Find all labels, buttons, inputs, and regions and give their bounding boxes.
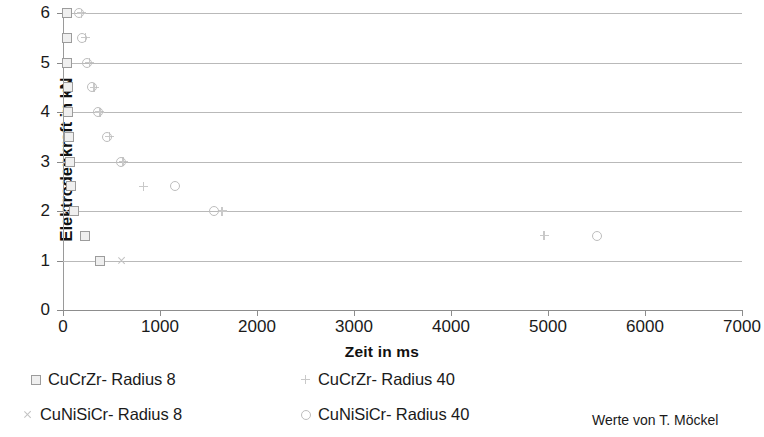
x-axis-tick-label: 7000 [707,318,764,335]
x-axis-tick [742,310,743,316]
legend-label: CuNiSiCr- Radius 40 [318,405,469,424]
legend-marker-cross-icon [22,409,33,420]
legend-marker-plus-icon [300,374,311,385]
x-axis-tick [645,310,646,316]
y-axis-tick-label: 5 [10,54,50,71]
x-axis-tick-label: 5000 [513,318,583,335]
data-point-square [66,181,76,191]
data-point-plus [104,131,115,142]
data-point-plus [138,181,149,192]
gridline [63,211,742,212]
cross-icon [22,409,33,420]
x-axis-tick-label: 6000 [610,318,680,335]
y-axis-tick-label: 3 [10,153,50,170]
x-axis-tick-label: 1000 [125,318,195,335]
x-axis-tick [451,310,452,316]
data-point-circle [77,33,87,43]
gridline [63,63,742,64]
legend-marker-square-icon [30,374,41,385]
gridline [63,261,742,262]
legend-label: CuNiSiCr- Radius 8 [40,405,182,424]
data-point-plus [89,82,100,93]
data-point-circle [87,82,97,92]
plus-icon [300,374,311,385]
y-axis-tick-label: 0 [10,301,50,318]
data-point-plus [539,230,550,241]
x-axis-tick-label: 4000 [416,318,486,335]
gridline [63,162,742,163]
x-axis-tick [548,310,549,316]
legend-item[interactable]: CuCrZr- Radius 40 [300,370,455,389]
plot-area [63,13,742,310]
x-axis-tick [63,310,64,316]
y-axis-tick-label: 6 [10,4,50,21]
x-axis-tick-label: 3000 [319,318,389,335]
x-axis-tick [160,310,161,316]
legend-label: CuCrZr- Radius 40 [318,370,455,389]
x-axis-title: Zeit in ms [0,343,764,361]
gridline [63,13,742,14]
chart-credit: Werte von T. Möckel [592,412,718,428]
data-point-circle [592,231,602,241]
data-point-circle [170,181,180,191]
y-axis-tick-label: 4 [10,103,50,120]
data-point-square [63,82,73,92]
y-axis-tick-label: 1 [10,252,50,269]
circle-icon [301,410,311,420]
legend-item[interactable]: CuCrZr- Radius 8 [30,370,176,389]
legend-label: CuCrZr- Radius 8 [48,370,176,389]
x-axis-tick-label: 2000 [222,318,292,335]
square-icon [31,375,41,385]
x-axis-tick [257,310,258,316]
x-axis-line [63,310,743,311]
gridline [63,112,742,113]
x-axis-tick-label: 0 [28,318,98,335]
chart-figure: Elektrodenkraft in kN 0123456 0100020003… [0,0,764,437]
legend-marker-circle-icon [300,409,311,420]
data-point-circle [102,132,112,142]
data-point-square [80,231,90,241]
x-axis-tick [354,310,355,316]
data-point-square [62,33,72,43]
data-point-square [64,132,74,142]
legend-item[interactable]: CuNiSiCr- Radius 8 [22,405,182,424]
y-axis-tick-label: 2 [10,202,50,219]
legend-item[interactable]: CuNiSiCr- Radius 40 [300,405,469,424]
data-point-plus [80,32,91,43]
